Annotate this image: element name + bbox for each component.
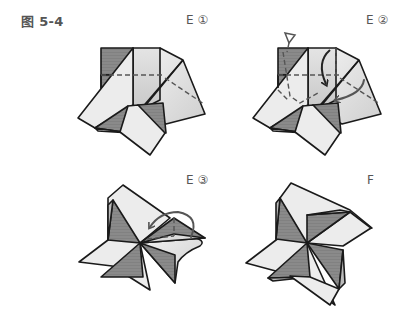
step-e3-drawing [79, 185, 205, 290]
step-e1-drawing [78, 48, 205, 155]
push-in-symbol-icon [285, 33, 295, 43]
step-f-drawing [246, 183, 372, 305]
origami-diagram [0, 0, 409, 321]
step-e2-drawing [253, 33, 381, 155]
